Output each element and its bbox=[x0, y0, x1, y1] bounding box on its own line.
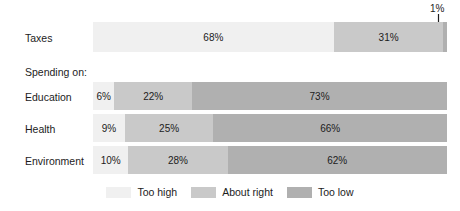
legend: Too high About right Too low bbox=[0, 186, 460, 198]
bar-segment-education-too-high: 6% bbox=[93, 82, 114, 110]
bar-segment-value: 31% bbox=[379, 32, 399, 43]
legend-item-too-high: Too high bbox=[106, 186, 177, 198]
row-label-health: Health bbox=[25, 123, 55, 135]
bar-segment-value: 62% bbox=[327, 155, 347, 166]
legend-item-too-low: Too low bbox=[287, 186, 354, 198]
legend-label: Too high bbox=[137, 186, 177, 198]
bar-segment-environment-too-low: 62% bbox=[228, 146, 447, 174]
bar-row-education: 6% 22% 73% bbox=[93, 82, 447, 110]
group-header-spending-on: Spending on: bbox=[25, 66, 87, 78]
legend-label: About right bbox=[222, 186, 273, 198]
legend-swatch-too-high-icon bbox=[106, 187, 131, 198]
annotation-1pct-label: 1% bbox=[430, 3, 444, 14]
row-label-education: Education bbox=[25, 91, 72, 103]
stacked-bar-chart: 1% Taxes 68% 31% Spending on: Education … bbox=[0, 0, 460, 211]
bar-row-environment: 10% 28% 62% bbox=[93, 146, 447, 174]
bar-segment-value: 22% bbox=[143, 91, 163, 102]
bar-segment-environment-about-right: 28% bbox=[128, 146, 227, 174]
legend-swatch-about-right-icon bbox=[191, 187, 216, 198]
bar-segment-taxes-too-low bbox=[443, 22, 447, 52]
bar-segment-value: 73% bbox=[310, 91, 330, 102]
bar-segment-value: 10% bbox=[101, 155, 121, 166]
bar-segment-education-too-low: 73% bbox=[192, 82, 447, 110]
bar-segment-value: 25% bbox=[159, 123, 179, 134]
bar-row-health: 9% 25% 66% bbox=[93, 114, 447, 142]
bar-segment-value: 9% bbox=[102, 123, 116, 134]
bar-segment-taxes-about-right: 31% bbox=[334, 22, 444, 52]
legend-item-about-right: About right bbox=[191, 186, 273, 198]
bar-segment-value: 6% bbox=[96, 91, 110, 102]
bar-segment-education-about-right: 22% bbox=[114, 82, 192, 110]
bar-row-taxes: 68% 31% bbox=[93, 22, 447, 52]
bar-segment-health-too-low: 66% bbox=[213, 114, 447, 142]
legend-label: Too low bbox=[318, 186, 354, 198]
bar-segment-environment-too-high: 10% bbox=[93, 146, 128, 174]
bar-segment-health-about-right: 25% bbox=[125, 114, 214, 142]
bar-segment-value: 66% bbox=[320, 123, 340, 134]
legend-swatch-too-low-icon bbox=[287, 187, 312, 198]
bar-segment-taxes-too-high: 68% bbox=[93, 22, 334, 52]
row-label-taxes: Taxes bbox=[25, 32, 52, 44]
bar-segment-value: 28% bbox=[168, 155, 188, 166]
bar-segment-value: 68% bbox=[203, 32, 223, 43]
bar-segment-health-too-high: 9% bbox=[93, 114, 125, 142]
row-label-environment: Environment bbox=[25, 155, 84, 167]
